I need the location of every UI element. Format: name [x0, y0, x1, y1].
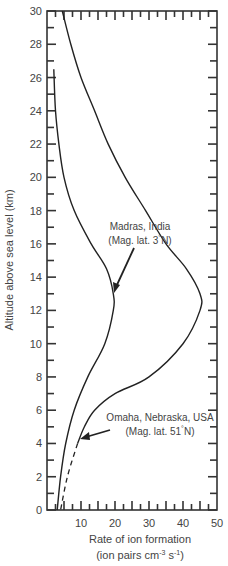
y-tick-label: 14: [30, 271, 42, 283]
x-tick-label: 30: [143, 517, 155, 529]
x-tick-label: 40: [177, 517, 189, 529]
madras-curve: [54, 69, 114, 510]
ion-formation-chart: 024681012141618202224262830 1020304050 A…: [0, 0, 228, 566]
y-tick-label: 30: [30, 5, 42, 17]
y-tick-label: 8: [36, 371, 42, 383]
madras-annotation: Madras, India (Mag. lat. 3°N): [108, 221, 171, 293]
y-tick-label: 18: [30, 205, 42, 217]
y-tick-label: 2: [36, 471, 42, 483]
y-tick-label: 20: [30, 171, 42, 183]
y-tick-label: 24: [30, 105, 42, 117]
x-axis-ticks: 1020304050: [56, 11, 224, 529]
y-tick-label: 6: [36, 404, 42, 416]
y-tick-label: 16: [30, 238, 42, 250]
y-tick-label: 10: [30, 338, 42, 350]
svg-text:Madras, India: Madras, India: [110, 221, 171, 232]
y-tick-label: 12: [30, 304, 42, 316]
y-tick-label: 28: [30, 38, 42, 50]
x-tick-label: 10: [75, 517, 87, 529]
x-axis-units: (ion pairs cm-3 s-1): [96, 549, 184, 561]
omaha-arrow: [86, 430, 110, 437]
svg-text:(Mag. lat. 3°N): (Mag. lat. 3°N): [108, 234, 171, 246]
y-tick-label: 26: [30, 72, 42, 84]
y-tick-label: 22: [30, 138, 42, 150]
omaha-annotation: Omaha, Nebraska, USA (Mag. lat. 51°N): [80, 412, 214, 440]
madras-arrow: [116, 248, 134, 287]
x-tick-label: 50: [211, 517, 223, 529]
x-axis-title: Rate of ion formation: [89, 533, 191, 545]
madras-arrowhead-icon: [113, 282, 120, 293]
omaha-dashed-extension: [61, 444, 78, 511]
y-axis-ticks: 024681012141618202224262830: [30, 5, 217, 516]
svg-text:(Mag. lat. 51°N): (Mag. lat. 51°N): [126, 425, 195, 437]
y-axis-title: Altitude above sea level (km): [3, 189, 15, 330]
svg-text:Omaha, Nebraska, USA: Omaha, Nebraska, USA: [106, 412, 214, 423]
y-tick-label: 4: [36, 437, 42, 449]
x-tick-label: 20: [109, 517, 121, 529]
y-tick-label: 0: [36, 504, 42, 516]
